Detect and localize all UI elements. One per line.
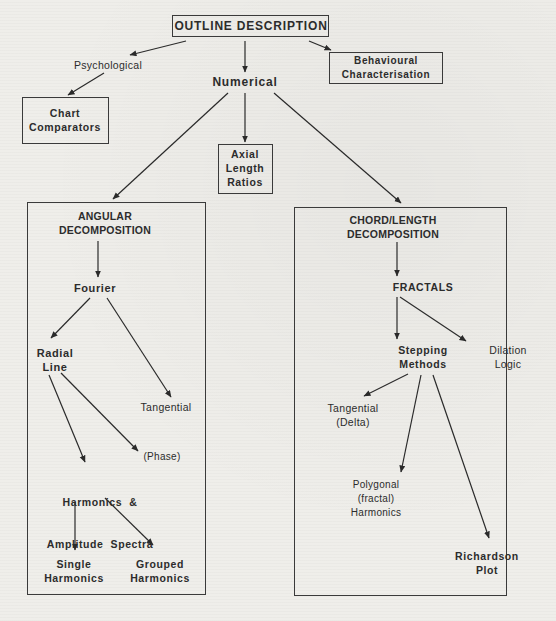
- single-harmonics-line-2: Harmonics: [44, 571, 104, 585]
- grouped-harmonics-label: Grouped Harmonics: [130, 557, 190, 585]
- dilation-logic-label: Dilation Logic: [489, 343, 526, 371]
- behavioural-characterisation-label: Behavioural Characterisation: [342, 54, 431, 82]
- outline-description-label: OUTLINE DESCRIPTION: [174, 19, 327, 33]
- fourier-label: Fourier: [74, 281, 116, 295]
- chart-comparators-line-2: Comparators: [29, 120, 101, 134]
- chart-comparators-line-1: Chart: [29, 106, 101, 120]
- harmonics-line-2: Amplitude Spectra: [47, 537, 153, 551]
- axial-line-3: Ratios: [226, 175, 265, 189]
- angular-title-line-2: DECOMPOSITION: [59, 223, 151, 237]
- polygonal-line-1: Polygonal: [351, 478, 402, 492]
- chord-length-decomposition-title: CHORD/LENGTH DECOMPOSITION: [347, 213, 439, 241]
- psychological-label: Psychological: [74, 58, 142, 72]
- single-harmonics-line-1: Single: [44, 557, 104, 571]
- single-harmonics-label: Single Harmonics: [44, 557, 104, 585]
- angular-title-line-1: ANGULAR: [59, 209, 151, 223]
- grouped-harmonics-line-1: Grouped: [130, 557, 190, 571]
- stepping-methods-line-2: Methods: [398, 357, 448, 371]
- polygonal-fractal-harmonics-label: Polygonal (fractal) Harmonics: [351, 478, 402, 520]
- stepping-methods-line-1: Stepping: [398, 343, 448, 357]
- tangential-delta-label: Tangential (Delta): [328, 401, 379, 429]
- radial-line-1: Radial: [37, 346, 74, 360]
- fractals-label: FRACTALS: [393, 280, 454, 294]
- chord-title-line-1: CHORD/LENGTH: [347, 213, 439, 227]
- chart-comparators-label: Chart Comparators: [29, 106, 101, 134]
- richardson-line-2: Plot: [455, 563, 519, 577]
- diagram-page: OUTLINE DESCRIPTION Psychological Numeri…: [0, 0, 556, 621]
- chord-title-line-2: DECOMPOSITION: [347, 227, 439, 241]
- richardson-plot-label: Richardson Plot: [455, 549, 519, 577]
- harmonics-line-1: Harmonics &: [47, 495, 153, 509]
- angular-decomposition-title: ANGULAR DECOMPOSITION: [59, 209, 151, 237]
- chord-length-decomposition-panel: [294, 207, 507, 596]
- tangential-delta-line-2: (Delta): [328, 415, 379, 429]
- radial-line-2: Line: [37, 360, 74, 374]
- numerical-label: Numerical: [212, 75, 277, 89]
- axial-length-ratios-label: Axial Length Ratios: [226, 147, 265, 189]
- behavioural-line-1: Behavioural: [342, 54, 431, 68]
- polygonal-line-2: (fractal): [351, 492, 402, 506]
- dilation-logic-line-1: Dilation: [489, 343, 526, 357]
- phase-label: (Phase): [143, 450, 180, 464]
- axial-line-2: Length: [226, 161, 265, 175]
- grouped-harmonics-line-2: Harmonics: [130, 571, 190, 585]
- tangential-delta-line-1: Tangential: [328, 401, 379, 415]
- radial-line-label: Radial Line: [37, 346, 74, 374]
- dilation-logic-line-2: Logic: [489, 357, 526, 371]
- tangential-label: Tangential: [141, 400, 192, 414]
- richardson-line-1: Richardson: [455, 549, 519, 563]
- behavioural-line-2: Characterisation: [342, 68, 431, 82]
- axial-line-1: Axial: [226, 147, 265, 161]
- stepping-methods-label: Stepping Methods: [398, 343, 448, 371]
- polygonal-line-3: Harmonics: [351, 506, 402, 520]
